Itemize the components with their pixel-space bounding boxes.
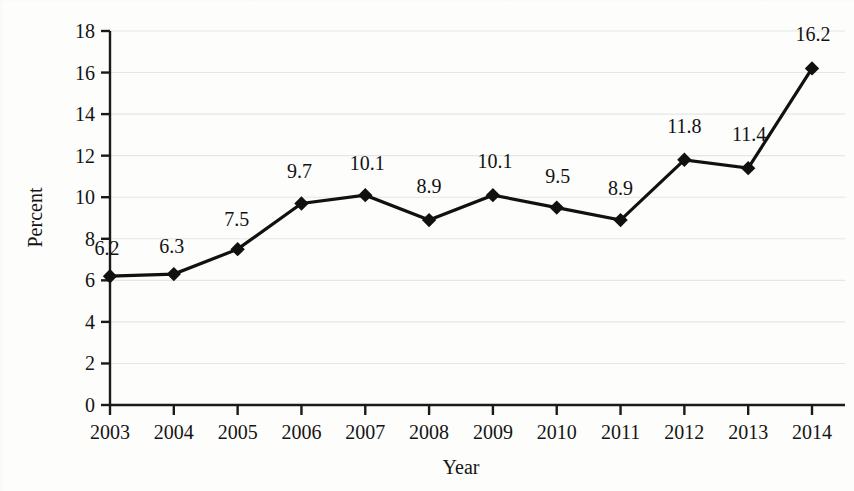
- data-point-label: 8.9: [389, 176, 469, 196]
- y-axis-tick-label: 0: [85, 395, 95, 415]
- data-point-label: 7.5: [197, 209, 277, 229]
- data-point-marker: [167, 267, 181, 281]
- data-point-label: 16.2: [773, 24, 853, 44]
- data-point-marker: [486, 188, 500, 202]
- y-axis-tick-label: 16: [75, 63, 95, 83]
- data-point-label: 6.3: [132, 236, 212, 256]
- data-point-label: 8.9: [581, 178, 661, 198]
- data-point-marker: [422, 213, 436, 227]
- y-axis-tick-label: 4: [85, 312, 95, 332]
- gridlines: [109, 31, 845, 363]
- chart-page: 024681012141618 200320042005200620072008…: [0, 0, 854, 491]
- x-axis-tick-label: 2014: [772, 422, 852, 442]
- series-line-percent: [110, 68, 812, 276]
- y-axis-tick-label: 2: [85, 353, 95, 373]
- data-point-label: 10.1: [327, 153, 407, 173]
- y-axis-tick-label: 18: [75, 21, 95, 41]
- x-axis-title: Year: [361, 456, 561, 479]
- y-axis-tick-label: 14: [75, 104, 95, 124]
- y-axis-tick-label: 6: [85, 270, 95, 290]
- y-axis-tick-label: 10: [75, 187, 95, 207]
- y-axis-title: Percent: [24, 173, 47, 263]
- data-point-label: 11.4: [709, 124, 789, 144]
- data-point-marker: [358, 188, 372, 202]
- y-axis-tick-label: 12: [75, 146, 95, 166]
- data-point-marker: [550, 200, 564, 214]
